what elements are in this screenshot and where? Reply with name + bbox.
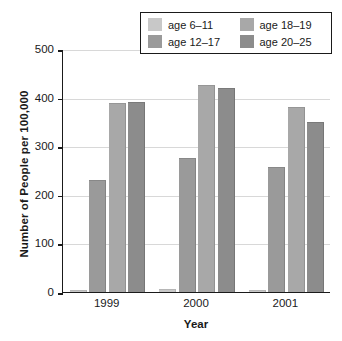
plot-inner: [63, 50, 330, 292]
y-axis-tick-mark: [58, 244, 63, 246]
y-axis-title: Number of People per 100,000: [18, 54, 30, 294]
legend-swatch: [148, 18, 162, 31]
chart-legend: age 6–11age 18–19age 12–17age 20–25: [140, 12, 332, 54]
bar: [70, 290, 87, 292]
legend-entry: age 18–19: [240, 18, 326, 31]
bar: [198, 85, 215, 293]
bar: [159, 289, 176, 292]
y-axis-tick-mark: [58, 99, 63, 101]
legend-label: age 18–19: [260, 19, 312, 31]
y-axis-tick-label: 500: [0, 44, 54, 56]
bar: [249, 290, 266, 292]
y-axis-tick-label: 300: [0, 141, 54, 153]
legend-entry: age 12–17: [148, 35, 234, 48]
bar: [307, 122, 324, 292]
gridline: [63, 99, 330, 100]
y-axis-tick-label: 400: [0, 93, 54, 105]
legend-label: age 12–17: [168, 36, 220, 48]
y-axis-tick-label: 200: [0, 190, 54, 202]
bar: [179, 158, 196, 292]
y-axis-tick-mark: [58, 196, 63, 198]
legend-grid: age 6–11age 18–19age 12–17age 20–25: [148, 18, 325, 48]
plot-area: [62, 50, 330, 293]
bar: [128, 102, 145, 292]
bar: [218, 88, 235, 292]
x-axis-title: Year: [62, 318, 330, 330]
legend-label: age 20–25: [260, 36, 312, 48]
legend-label: age 6–11: [168, 19, 213, 31]
legend-entry: age 6–11: [148, 18, 234, 31]
legend-swatch: [240, 35, 254, 48]
bar-chart-figure: Number of People per 100,000 Year age 6–…: [0, 0, 342, 341]
y-axis-tick-label: 0: [0, 287, 54, 299]
legend-swatch: [240, 18, 254, 31]
x-axis-tick-label: 2000: [161, 297, 231, 309]
y-axis-tick-mark: [58, 50, 63, 52]
bar: [109, 103, 126, 292]
legend-entry: age 20–25: [240, 35, 326, 48]
y-axis-tick-mark: [58, 147, 63, 149]
y-axis-tick-mark: [58, 293, 63, 295]
bar: [89, 180, 106, 292]
x-axis-tick-label: 2001: [250, 297, 320, 309]
bar: [268, 167, 285, 292]
legend-swatch: [148, 35, 162, 48]
bar: [288, 107, 305, 292]
y-axis-tick-label: 100: [0, 238, 54, 250]
x-axis-tick-label: 1999: [72, 297, 142, 309]
